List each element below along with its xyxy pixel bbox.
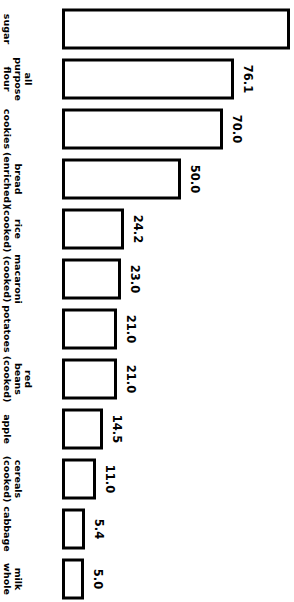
- category-label-line: cereals: [13, 452, 24, 506]
- category-axis-label: cabbage: [2, 502, 13, 556]
- bar-group: 21.0redbeans(cooked): [0, 354, 294, 404]
- bar-group: 50.0bread(enriched): [0, 154, 294, 204]
- category-label-line: cookies: [2, 102, 13, 156]
- category-label-line: flour: [2, 52, 13, 106]
- category-axis-label: redbeans(cooked): [2, 352, 34, 406]
- bar-value-label: 14.5: [110, 415, 124, 443]
- bar-value-label: 21.0: [124, 315, 138, 343]
- bar-group: 23.0macaroni(cooked): [0, 254, 294, 304]
- category-axis-label: cookies: [2, 102, 13, 156]
- bar-value-label: 5.0: [91, 569, 105, 589]
- bar: [62, 159, 181, 200]
- category-label-line: (cooked): [2, 202, 13, 256]
- bar: [62, 409, 103, 450]
- category-label-line: (cooked): [2, 252, 13, 306]
- bar: [62, 309, 117, 350]
- category-axis-label: sugar: [2, 2, 13, 56]
- bar: [62, 459, 96, 500]
- bar-group: 11.0cereals(cooked): [0, 454, 294, 504]
- bar-value-label: 11.0: [103, 465, 117, 493]
- bar-group: 14.5apple: [0, 404, 294, 454]
- bar-group: 24.2rice(cooked): [0, 204, 294, 254]
- category-label-line: cabbage: [2, 502, 13, 556]
- category-label-line: purpose: [13, 52, 24, 106]
- bar: [62, 359, 117, 400]
- category-axis-label: macaroni(cooked): [2, 252, 23, 306]
- category-label-line: (cooked): [2, 352, 13, 406]
- category-axis-label: potatoes: [2, 302, 13, 356]
- bar-group: sugar: [0, 4, 294, 54]
- category-label-line: whole: [2, 552, 13, 602]
- bar-group: 5.0milkwhole: [0, 554, 294, 602]
- category-label-line: macaroni: [13, 252, 24, 306]
- category-axis-label: bread(enriched): [2, 152, 23, 206]
- bar-value-label: 21.0: [124, 365, 138, 393]
- category-label-line: red: [23, 352, 34, 406]
- bar-group: 70.0cookies: [0, 104, 294, 154]
- category-axis-label: allpurposeflour: [2, 52, 34, 106]
- category-label-line: beans: [13, 352, 24, 406]
- bar: [62, 9, 290, 50]
- bar: [62, 109, 223, 150]
- category-label-line: (enriched): [2, 152, 13, 206]
- bar: [62, 509, 85, 550]
- bar-group: 5.4cabbage: [0, 504, 294, 554]
- bar-group: 21.0potatoes: [0, 304, 294, 354]
- bar-value-label: 24.2: [131, 215, 145, 243]
- category-label-line: (cooked): [2, 452, 13, 506]
- category-axis-label: apple: [2, 402, 13, 456]
- bar-value-label: 23.0: [128, 265, 142, 293]
- bar: [62, 259, 121, 300]
- category-label-line: sugar: [2, 2, 13, 56]
- plot-area: sugar76.1allpurposeflour70.0cookies50.0b…: [0, 0, 294, 602]
- category-axis-label: rice(cooked): [2, 202, 23, 256]
- category-label-line: rice: [13, 202, 24, 256]
- category-label-line: bread: [13, 152, 24, 206]
- bar-value-label: 70.0: [230, 115, 244, 143]
- category-label-line: apple: [2, 402, 13, 456]
- bar-group: 76.1allpurposeflour: [0, 54, 294, 104]
- bar: [62, 209, 124, 250]
- category-axis-label: cereals(cooked): [2, 452, 23, 506]
- category-label-line: milk: [13, 552, 24, 602]
- bar-chart: sugar76.1allpurposeflour70.0cookies50.0b…: [0, 0, 294, 602]
- category-label-line: all: [23, 52, 34, 106]
- category-axis-label: milkwhole: [2, 552, 23, 602]
- bar: [62, 59, 234, 100]
- bar-value-label: 5.4: [92, 519, 106, 539]
- category-label-line: potatoes: [2, 302, 13, 356]
- bar: [62, 559, 84, 600]
- bar-value-label: 50.0: [188, 165, 202, 193]
- bar-value-label: 76.1: [241, 65, 255, 93]
